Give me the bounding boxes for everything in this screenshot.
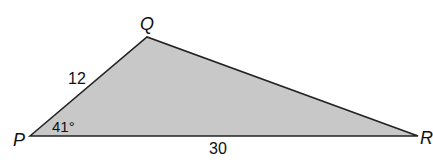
side-label-pq: 12: [68, 71, 86, 87]
angle-label-p: 41°: [52, 119, 75, 134]
vertex-label-r: R: [420, 129, 433, 147]
vertex-label-p: P: [13, 131, 25, 149]
triangle-pqr: [30, 37, 418, 136]
vertex-label-q: Q: [140, 15, 154, 33]
side-label-pr: 30: [209, 141, 227, 157]
